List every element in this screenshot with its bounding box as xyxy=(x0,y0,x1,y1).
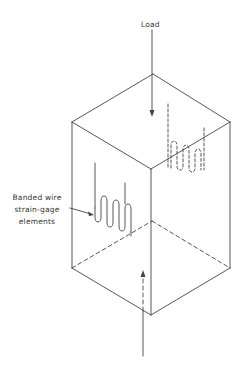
diagram-drawing xyxy=(0,0,243,375)
right-strain-gage xyxy=(168,104,204,172)
gage-label-line-2: strain-gage xyxy=(6,204,68,216)
box-top-face xyxy=(72,74,230,169)
load-label: Load xyxy=(141,20,160,29)
load-arrow-bottom xyxy=(141,270,146,356)
gage-label-line-1: Banded wire xyxy=(6,192,68,204)
strain-gage-diagram: Load Banded wire strain-gage elements xyxy=(0,0,243,375)
box-vertical-edges xyxy=(72,122,230,315)
left-strain-gage xyxy=(95,163,131,236)
strain-gage-label: Banded wire strain-gage elements xyxy=(6,192,68,228)
gage-label-line-3: elements xyxy=(6,216,68,228)
gage-leader-line xyxy=(70,208,94,216)
load-arrow-top xyxy=(150,30,155,117)
